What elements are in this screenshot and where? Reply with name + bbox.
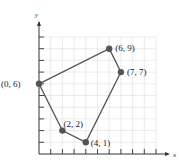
data-point xyxy=(36,81,42,87)
point-label: (4, 1) xyxy=(91,138,111,148)
data-point xyxy=(118,69,124,75)
point-label: (7, 7) xyxy=(127,67,146,77)
data-point xyxy=(83,139,89,145)
point-label: (2, 2) xyxy=(63,119,83,129)
axes: yx xyxy=(34,11,177,159)
x-axis-label: x xyxy=(172,151,177,159)
y-axis-label: y xyxy=(34,11,39,19)
point-label: (6, 9) xyxy=(115,43,135,53)
data-point xyxy=(106,46,112,52)
point-label: (0, 6) xyxy=(1,79,21,89)
polygon-plot: yx (0, 6)(6, 9)(7, 7)(4, 1)(2, 2) xyxy=(0,0,181,165)
